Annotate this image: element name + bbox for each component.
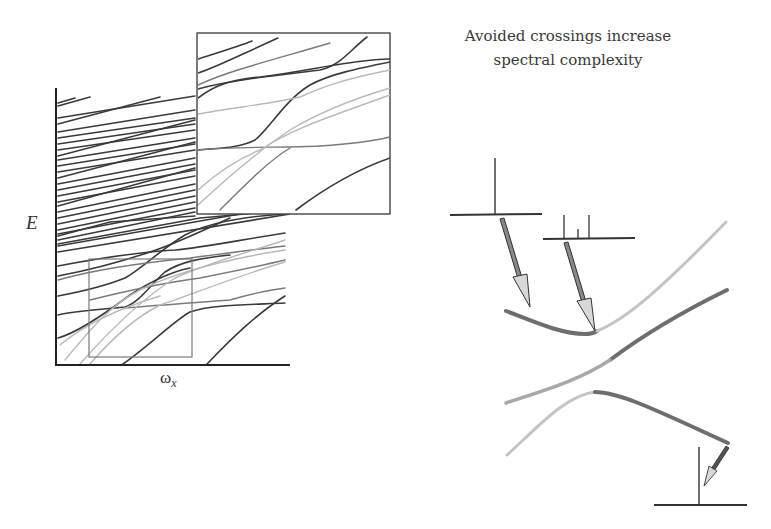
spectrum-lower-single-line (654, 447, 747, 505)
lower-branch-curve (507, 392, 728, 455)
title-line-1: Avoided crossings increase (448, 24, 688, 48)
x-axis-label-subscript: x (171, 376, 176, 390)
arrow-spectrum1-to-curve (500, 218, 530, 307)
sparse-level-lines (58, 214, 285, 364)
x-axis-label-base: ω (160, 368, 171, 387)
crossing-diagonal-line (506, 290, 727, 403)
spectrum-single-line (450, 158, 542, 215)
magnified-inset (197, 33, 390, 214)
title-line-2: spectral complexity (448, 48, 688, 72)
arrow-spectrum2-to-curve (564, 242, 595, 331)
arrow-curve-to-spectrum3 (704, 446, 729, 486)
figure-title: Avoided crossings increase spectral comp… (448, 24, 688, 72)
zoom-region-box (89, 259, 192, 357)
avoided-crossing-schematic (450, 158, 747, 505)
spectrum-split-lines (543, 215, 635, 239)
figure-canvas (0, 0, 771, 529)
y-axis-label: E (26, 212, 38, 234)
x-axis-label: ωx (160, 368, 177, 391)
